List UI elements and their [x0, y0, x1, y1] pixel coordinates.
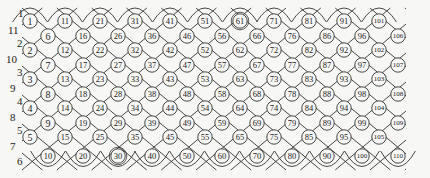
circled-number-cell: 73: [267, 72, 281, 86]
cell-number: 14: [61, 103, 70, 113]
circled-number-cell: 35: [128, 130, 142, 144]
circled-number-cell: 56: [215, 29, 229, 43]
cell-number: 42: [166, 45, 175, 55]
cell-number: 102: [374, 46, 385, 54]
cell-number: 98: [358, 89, 367, 99]
circled-number-cell: 55: [198, 130, 212, 144]
cell-number: 79: [288, 118, 297, 128]
circled-number-cell: 54: [198, 101, 212, 115]
circled-number-cell: 47: [180, 58, 194, 72]
circled-number-cell: 97: [355, 58, 369, 72]
cell-number: 69: [253, 118, 262, 128]
cell-number: 91: [340, 16, 349, 26]
cell-number: 37: [148, 60, 157, 70]
circled-number-cell: 102: [372, 43, 386, 57]
circled-number-cell: 16: [76, 29, 90, 43]
cell-number: 58: [218, 89, 227, 99]
circled-number-cell: 108: [391, 87, 405, 101]
circled-number-cell: 25: [93, 130, 107, 144]
cell-number: 93: [340, 74, 349, 84]
cell-number: 97: [358, 60, 367, 70]
cell-number: 30: [114, 151, 123, 161]
cell-number: 80: [288, 151, 297, 161]
cell-number: 27: [114, 60, 123, 70]
circled-number-cell: 77: [285, 58, 299, 72]
circled-number-cell: 92: [337, 43, 351, 57]
cell-number: 84: [305, 103, 314, 113]
circled-number-cell: 6: [41, 29, 55, 43]
circled-number-cell: 85: [302, 130, 316, 144]
circled-number-cell: 74: [267, 101, 281, 115]
circled-number-cell: 42: [163, 43, 177, 57]
cell-number: 67: [253, 60, 262, 70]
cell-number: 83: [305, 74, 314, 84]
circled-number-cell: 66: [250, 29, 264, 43]
circled-number-cell: 12: [58, 43, 72, 57]
cell-number: 103: [374, 75, 385, 83]
circled-number-cell: 83: [302, 72, 316, 86]
circled-number-cell: 63: [233, 72, 247, 86]
cell-number: 48: [183, 89, 192, 99]
cell-number: 24: [96, 103, 105, 113]
cell-number: 46: [183, 31, 192, 41]
circled-number-cell: 37: [145, 58, 159, 72]
circled-number-cell: 107: [391, 58, 405, 72]
edge-label: 10: [6, 53, 18, 65]
circled-number-cell: 81: [302, 14, 316, 28]
cell-number: 49: [183, 118, 192, 128]
circled-number-cell: 31: [128, 14, 142, 28]
circled-number-cell: 29: [111, 116, 125, 130]
circled-number-cell: 50: [180, 149, 194, 163]
cell-number: 90: [323, 151, 332, 161]
cell-number: 92: [340, 45, 349, 55]
circled-number-cell: 41: [163, 14, 177, 28]
cell-number: 34: [131, 103, 140, 113]
circled-number-cell: 60: [215, 149, 229, 163]
circled-number-cell: 17: [76, 58, 90, 72]
circled-number-cell: 49: [180, 116, 194, 130]
circled-number-cell: 28: [111, 87, 125, 101]
cell-number: 77: [288, 60, 297, 70]
circled-number-cell: 91: [337, 14, 351, 28]
edge-label: 7: [10, 140, 16, 152]
circled-number-cell: 90: [320, 149, 334, 163]
cell-number: 4: [28, 103, 33, 114]
cell-number: 100: [357, 152, 368, 160]
circled-number-cell: 64: [233, 101, 247, 115]
edge-label: 2: [17, 37, 23, 49]
circled-number-cell: 88: [320, 87, 334, 101]
circled-number-cell: 11: [58, 14, 72, 28]
cell-number: 62: [236, 45, 245, 55]
circled-number-cell: 34: [128, 101, 142, 115]
circled-number-cell: 30: [109, 147, 127, 165]
circled-number-cell: 39: [145, 116, 159, 130]
circled-number-cell: 65: [233, 130, 247, 144]
cell-number: 26: [114, 31, 123, 41]
cell-number: 82: [305, 45, 314, 55]
cell-number: 2: [28, 45, 33, 56]
cell-number: 15: [61, 132, 70, 142]
circled-number-cell: 94: [337, 101, 351, 115]
cell-number: 41: [166, 16, 175, 26]
circled-number-cell: 1: [23, 14, 37, 28]
cell-number: 53: [201, 74, 210, 84]
cell-number: 55: [201, 132, 210, 142]
cell-number: 22: [96, 45, 105, 55]
cell-number: 47: [183, 60, 192, 70]
circled-number-cell: 59: [215, 116, 229, 130]
edge-label: 4: [17, 95, 23, 107]
circled-number-cell: 103: [372, 72, 386, 86]
cell-number: 63: [236, 74, 245, 84]
circled-number-cell: 36: [145, 29, 159, 43]
circled-number-cell: 80: [285, 149, 299, 163]
circled-number-cell: 93: [337, 72, 351, 86]
circled-number-cell: 62: [233, 43, 247, 57]
cell-number: 23: [96, 74, 105, 84]
cell-number: 17: [79, 60, 88, 70]
cell-number: 95: [340, 132, 349, 142]
cell-number: 5: [28, 132, 33, 143]
cell-number: 87: [323, 60, 332, 70]
circled-number-cell: 21: [93, 14, 107, 28]
cell-number: 39: [148, 118, 157, 128]
circled-number-cell: 45: [163, 130, 177, 144]
